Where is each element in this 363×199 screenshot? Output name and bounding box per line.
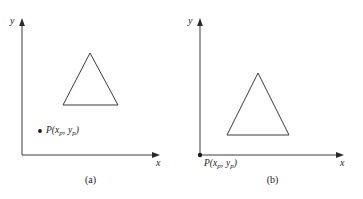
panel-a: y x P(xp, yp) (a): [0, 0, 181, 199]
y-axis-arrowhead: [19, 18, 25, 26]
panel-b-graphics: [182, 0, 363, 175]
point-y-subscript: p: [72, 129, 76, 137]
point-comma: ,: [63, 125, 66, 135]
point-x-subscript: p: [59, 129, 63, 137]
point-p-label: P(xp, yp): [46, 126, 79, 136]
y-axis-arrowhead: [197, 18, 203, 26]
point-dot: [38, 129, 42, 133]
x-axis-label: x: [156, 158, 160, 168]
point-close-paren: ): [234, 158, 237, 168]
panel-a-caption: (a): [0, 174, 181, 185]
panel-b-caption: (b): [182, 174, 363, 185]
point-dot: [198, 153, 202, 157]
point-close-paren: ): [76, 125, 79, 135]
y-axis-label: y: [10, 16, 14, 26]
panel-b: y x P(xp, yp) (b): [182, 0, 363, 199]
panel-a-graphics: [0, 0, 181, 175]
point-x-subscript: p: [217, 162, 221, 170]
y-axis-label: y: [188, 16, 192, 26]
point-y-subscript: p: [230, 162, 234, 170]
triangle-shape: [63, 53, 118, 105]
point-comma: ,: [221, 158, 224, 168]
figure-container: y x P(xp, yp) (a) y x P(xp, yp) (b): [0, 0, 363, 199]
triangle-shape: [227, 73, 289, 135]
point-p-label: P(xp, yp): [204, 159, 237, 169]
x-axis-label: x: [340, 158, 344, 168]
